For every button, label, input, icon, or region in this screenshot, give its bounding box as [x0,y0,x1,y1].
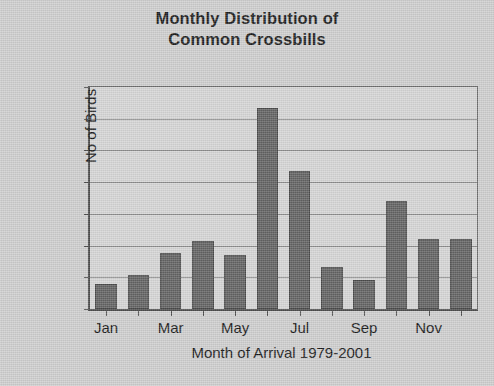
bar [128,275,149,309]
bar [386,201,407,309]
x-tick-mark [106,309,107,316]
bar [192,241,213,309]
x-axis-label: Month of Arrival 1979-2001 [88,344,475,361]
bar-series [90,87,477,309]
chart-title-line-2: Common Crossbills [0,29,494,50]
x-tick-mark [461,309,462,316]
bar [289,171,310,309]
x-tick-mark [203,309,204,316]
x-axis-tick-labels: JanMarMayJulSepNov [90,319,477,339]
bar [257,108,278,309]
x-tick-mark [332,309,333,316]
bar [224,255,245,309]
x-tick-label: Nov [415,319,442,336]
x-tick-label: Sep [351,319,378,336]
chart-figure: Monthly Distribution of Common Crossbill… [0,0,494,386]
x-tick-mark [300,309,301,316]
y-axis-label: No of Birds [82,89,99,163]
bar [321,267,342,309]
x-tick-mark [267,309,268,316]
plot-area: JanMarMayJulSepNov No of Birds 020040060… [88,86,478,311]
chart-title: Monthly Distribution of Common Crossbill… [0,8,494,50]
x-tick-mark [235,309,236,316]
x-tick-mark [429,309,430,316]
x-tick-mark [138,309,139,316]
x-tick-mark [171,309,172,316]
chart-title-line-1: Monthly Distribution of [0,8,494,29]
x-tick-label: Jan [94,319,118,336]
x-tick-label: Mar [158,319,184,336]
bar [160,253,181,309]
x-tick-label: Jul [290,319,309,336]
bar [418,239,439,309]
x-tick-mark [396,309,397,316]
bar [450,239,471,309]
x-axis-ticks [90,309,477,316]
x-tick-mark [364,309,365,316]
bar [95,284,116,309]
x-tick-label: May [221,319,249,336]
bar [353,280,374,309]
